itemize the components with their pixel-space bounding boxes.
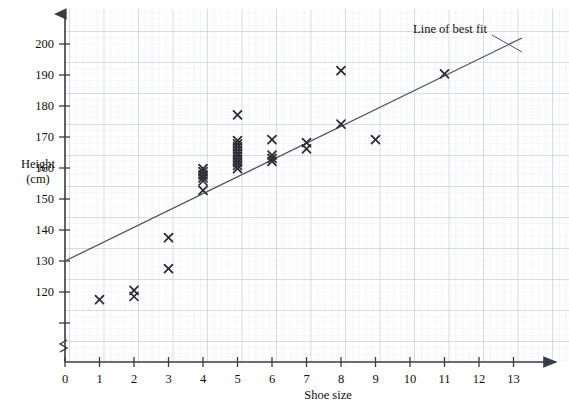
x-tick-label: 6	[269, 372, 275, 386]
x-tick-label: 10	[404, 372, 417, 386]
chart-canvas: 200 190 180 170 160 150 140 130 120	[0, 0, 569, 403]
x-tick-label: 5	[234, 372, 240, 386]
x-tick-label: 0	[62, 372, 68, 386]
x-tick-label: 7	[303, 372, 309, 386]
y-axis-title-line2: (cm)	[26, 172, 50, 186]
y-axis-title-line1: Height	[21, 157, 56, 171]
x-tick-label: 8	[338, 372, 344, 386]
x-tick-label: 12	[473, 372, 486, 386]
y-tick-label: 140	[35, 223, 54, 237]
x-tick-label: 13	[507, 372, 520, 386]
x-tick-label: 1	[96, 372, 102, 386]
grid-area	[65, 9, 569, 362]
y-tick-label: 130	[35, 254, 54, 268]
y-tick-label: 170	[35, 130, 54, 144]
line-of-best-fit-label: Line of best fit	[413, 22, 487, 36]
y-tick-label: 120	[35, 285, 54, 299]
y-tick-label: 180	[35, 99, 54, 113]
y-tick-label: 150	[35, 192, 54, 206]
x-tick-label: 11	[438, 372, 450, 386]
x-axis-title: Shoe size	[304, 388, 352, 402]
x-tick-label: 9	[372, 372, 378, 386]
y-tick-label: 190	[35, 68, 54, 82]
x-tick-label: 2	[131, 372, 137, 386]
x-tick-labels: 0 1 2 3 4 5 6 7 8 9 10 11 12 13	[62, 372, 520, 386]
x-tick-label: 4	[200, 372, 207, 386]
scatter-chart: 200 190 180 170 160 150 140 130 120	[0, 0, 569, 403]
x-tick-label: 3	[165, 372, 171, 386]
y-tick-label: 200	[35, 37, 54, 51]
